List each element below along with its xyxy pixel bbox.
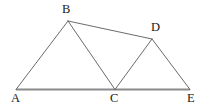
segment-cd (115, 39, 152, 90)
vertex-label-a: A (11, 92, 20, 105)
vertex-label-c: C (110, 92, 118, 105)
segment-de (152, 39, 190, 90)
segment-bd (68, 21, 152, 39)
geometry-figure: A B C D E (0, 0, 208, 109)
segment-ab (16, 21, 68, 90)
vertex-label-e: E (187, 92, 195, 105)
vertex-label-d: D (151, 21, 160, 34)
geometry-diagram-svg (0, 0, 208, 109)
vertex-label-b: B (62, 3, 70, 16)
segment-bc (68, 21, 115, 90)
